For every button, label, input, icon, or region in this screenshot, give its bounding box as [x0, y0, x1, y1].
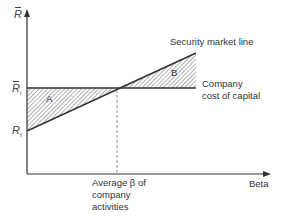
security-market-line-label: Security market line [170, 36, 253, 47]
average-beta-label-1: Average β of [92, 177, 146, 188]
y-axis-label: R [14, 8, 22, 20]
company-cost-label-1: Company [202, 78, 243, 89]
x-axis-arrow-icon [263, 171, 271, 177]
average-beta-label-2: company [92, 189, 131, 200]
region-b-label: B [171, 67, 177, 78]
y-axis-arrow-icon [24, 9, 30, 17]
y-tick-rf: Rf [12, 124, 22, 138]
average-beta-label-3: activities [92, 201, 128, 212]
x-axis-label: Beta [249, 178, 269, 189]
region-a-label: A [46, 93, 52, 104]
y-tick-ri: Ri [12, 82, 21, 96]
company-cost-label-2: cost of capital [202, 90, 260, 101]
